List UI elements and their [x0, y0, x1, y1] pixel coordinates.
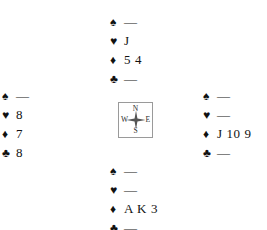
hand-east-spades-row: ♠ —: [203, 86, 252, 105]
hand-north-diamonds-row: ♦ 5 4: [110, 50, 142, 69]
compass-label-east: E: [145, 116, 150, 124]
heart-icon: ♥: [110, 32, 122, 51]
hand-north: ♠ — ♥ J ♦ 5 4 ♣ —: [110, 12, 142, 88]
diamond-icon: ♦: [203, 125, 215, 144]
hand-south-clubs: —: [122, 218, 137, 230]
hand-west: ♠ — ♥ 8 ♦ 7 ♣ 8: [2, 86, 29, 162]
hand-east-hearts-row: ♥ —: [203, 105, 252, 124]
hand-west-clubs-row: ♣ 8: [2, 143, 29, 162]
hand-west-diamonds-row: ♦ 7: [2, 124, 29, 143]
spade-icon: ♠: [110, 13, 122, 32]
hand-east-clubs-row: ♣ —: [203, 143, 252, 162]
hand-south-hearts: —: [122, 180, 137, 199]
heart-icon: ♥: [110, 181, 122, 200]
club-icon: ♣: [2, 144, 14, 163]
hand-south-spades-row: ♠ —: [110, 161, 158, 180]
hand-east-hearts: —: [215, 105, 230, 124]
compass-star-icon: [126, 111, 145, 130]
hand-east-clubs: —: [215, 143, 230, 162]
club-icon: ♣: [110, 219, 122, 230]
club-icon: ♣: [110, 70, 122, 89]
hand-west-spades-row: ♠ —: [2, 86, 29, 105]
hand-east-spades: —: [215, 86, 230, 105]
hand-west-hearts: 8: [14, 105, 23, 124]
hand-west-diamonds: 7: [14, 124, 23, 143]
hand-north-hearts-row: ♥ J: [110, 31, 142, 50]
spade-icon: ♠: [2, 87, 14, 106]
spade-icon: ♠: [110, 162, 122, 181]
hand-east-diamonds-row: ♦ J 10 9: [203, 124, 252, 143]
hand-south: ♠ — ♥ — ♦ A K 3 ♣ —: [110, 161, 158, 230]
diamond-icon: ♦: [2, 125, 14, 144]
heart-icon: ♥: [2, 106, 14, 125]
hand-south-spades: —: [122, 161, 137, 180]
hand-north-spades-row: ♠ —: [110, 12, 142, 31]
hand-north-hearts: J: [122, 31, 130, 50]
hand-east-diamonds: J 10 9: [215, 124, 252, 143]
hand-west-spades: —: [14, 86, 29, 105]
hand-south-diamonds-row: ♦ A K 3: [110, 199, 158, 218]
hand-west-hearts-row: ♥ 8: [2, 105, 29, 124]
hand-west-clubs: 8: [14, 143, 23, 162]
hand-north-clubs-row: ♣ —: [110, 69, 142, 88]
compass-box: N W E S: [118, 102, 153, 138]
hand-south-hearts-row: ♥ —: [110, 180, 158, 199]
diamond-icon: ♦: [110, 51, 122, 70]
club-icon: ♣: [203, 144, 215, 163]
spade-icon: ♠: [203, 87, 215, 106]
heart-icon: ♥: [203, 106, 215, 125]
hand-south-clubs-row: ♣ —: [110, 218, 158, 230]
compass-inner: N W E S: [119, 103, 152, 137]
bridge-deal-diagram: ♠ — ♥ J ♦ 5 4 ♣ — ♠ — ♥ 8 ♦ 7 ♣: [0, 0, 267, 230]
hand-east: ♠ — ♥ — ♦ J 10 9 ♣ —: [203, 86, 252, 162]
hand-north-spades: —: [122, 12, 137, 31]
hand-south-diamonds: A K 3: [122, 199, 158, 218]
hand-north-diamonds: 5 4: [122, 50, 142, 69]
diamond-icon: ♦: [110, 200, 122, 219]
hand-north-clubs: —: [122, 69, 137, 88]
